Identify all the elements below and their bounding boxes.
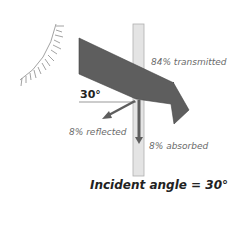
diagram-canvas [0, 0, 245, 241]
reflected-arrow [102, 101, 135, 119]
reflected-label: 8% reflected [69, 127, 126, 137]
absorbed-label: 8% absorbed [149, 141, 208, 151]
transmitted-label: 84% transmitted [151, 57, 227, 67]
sun-icon [20, 24, 64, 86]
diagram-caption: Incident angle = 30° [90, 178, 228, 192]
incident-angle-label: 30° [80, 88, 101, 101]
